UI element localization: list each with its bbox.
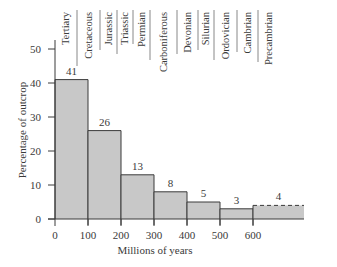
bar-value-label: 8	[168, 177, 174, 189]
y-tick: 20	[30, 145, 55, 157]
period-precambrian: Precambrian	[258, 10, 274, 65]
x-tick: 500	[212, 219, 229, 241]
histogram-bar: 26	[88, 116, 121, 225]
svg-text:0: 0	[52, 229, 58, 241]
histogram-bar: 8	[154, 177, 187, 225]
svg-text:10: 10	[30, 179, 42, 191]
bar-value-label: 5	[201, 187, 207, 199]
period-jurassic: Jurassic	[100, 10, 114, 50]
svg-text:Cambrian: Cambrian	[242, 11, 253, 53]
bar-value-label: 3	[234, 194, 240, 206]
svg-text:100: 100	[80, 229, 97, 241]
y-tick: 10	[30, 179, 55, 191]
svg-text:Carboniferous: Carboniferous	[158, 12, 169, 72]
svg-text:Jurassic: Jurassic	[103, 12, 114, 46]
svg-text:200: 200	[113, 229, 130, 241]
svg-text:50: 50	[30, 43, 42, 55]
bar-value-label: 26	[99, 116, 111, 128]
svg-text:Permian: Permian	[136, 11, 147, 47]
x-tick: 400	[179, 219, 196, 241]
histogram-chart: 4126138534 TertiaryCretaceousJurassicTri…	[0, 0, 337, 267]
svg-text:30: 30	[30, 111, 42, 123]
x-tick: 300	[146, 219, 163, 241]
svg-text:Silurian: Silurian	[200, 11, 211, 45]
svg-text:Ordovician: Ordovician	[220, 11, 231, 59]
histogram-bar: 4	[253, 190, 304, 225]
svg-text:600: 600	[245, 229, 262, 241]
x-axis-ticks: 0100200300400500600	[52, 219, 262, 241]
histogram-bars: 4126138534	[55, 65, 304, 225]
histogram-bar: 13	[121, 160, 154, 225]
bar-value-label: 41	[66, 65, 77, 77]
period-cambrian: Cambrian	[237, 10, 253, 53]
svg-text:300: 300	[146, 229, 163, 241]
histogram-bar: 41	[55, 65, 88, 219]
x-tick: 200	[113, 219, 130, 241]
period-permian: Permian	[133, 10, 147, 47]
svg-text:Cretaceous: Cretaceous	[83, 12, 94, 59]
y-tick: 50	[30, 43, 55, 55]
svg-text:Devonian: Devonian	[182, 11, 193, 53]
x-tick: 100	[80, 219, 97, 241]
svg-text:40: 40	[30, 77, 42, 89]
y-axis-ticks: 01020304050	[30, 43, 55, 225]
svg-text:0: 0	[36, 213, 42, 225]
period-ordovician: Ordovician	[214, 10, 231, 60]
y-tick: 30	[30, 111, 55, 123]
period-carboniferous: Carboniferous	[150, 10, 169, 72]
period-tertiary: Tertiary	[60, 11, 71, 45]
histogram-bar: 3	[220, 194, 253, 225]
svg-text:Precambrian: Precambrian	[263, 11, 274, 65]
x-tick: 600	[245, 219, 262, 241]
period-cretaceous: Cretaceous	[77, 10, 94, 66]
geologic-period-labels: TertiaryCretaceousJurassicTriassicPermia…	[60, 10, 274, 72]
svg-text:20: 20	[30, 145, 42, 157]
bar-value-label: 4	[276, 190, 282, 202]
x-axis-title: Millions of years	[117, 244, 192, 256]
y-tick: 40	[30, 77, 55, 89]
svg-text:500: 500	[212, 229, 229, 241]
period-silurian: Silurian	[198, 10, 211, 50]
y-axis-title: Percentage of outcrop	[16, 81, 28, 178]
svg-text:Tertiary: Tertiary	[60, 11, 71, 45]
bar-value-label: 13	[132, 160, 144, 172]
svg-text:Triassic: Triassic	[119, 12, 130, 45]
period-triassic: Triassic	[117, 10, 130, 54]
x-tick: 0	[52, 219, 58, 241]
svg-text:400: 400	[179, 229, 196, 241]
y-tick: 0	[36, 213, 56, 225]
period-devonian: Devonian	[177, 10, 193, 54]
